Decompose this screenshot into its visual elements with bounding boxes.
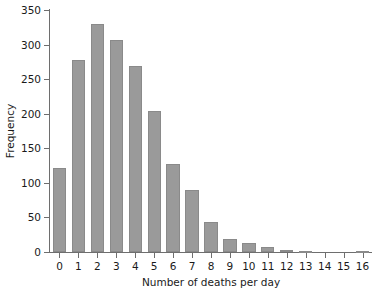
x-axis-tick [59, 253, 60, 258]
y-axis-tick [44, 252, 49, 253]
bar [72, 60, 85, 252]
y-axis-tick [44, 45, 49, 46]
x-axis-tick [344, 253, 345, 258]
x-axis-tick [154, 253, 155, 258]
x-axis-tick [287, 253, 288, 258]
x-axis-tick [306, 253, 307, 258]
bar [223, 239, 236, 252]
x-axis-tick-label: 9 [227, 261, 234, 272]
x-axis-tick-label: 5 [151, 261, 158, 272]
x-axis-tick [116, 253, 117, 258]
bar [261, 247, 274, 252]
bars-layer [50, 10, 372, 252]
bar [280, 250, 293, 252]
x-axis-tick [249, 253, 250, 258]
y-axis-tick-label: 200 [21, 108, 41, 119]
x-axis-tick [78, 253, 79, 258]
bar [299, 251, 312, 253]
x-axis-tick [135, 253, 136, 258]
x-axis-tick-label: 4 [132, 261, 139, 272]
x-axis-tick-label: 13 [299, 261, 312, 272]
x-axis-tick-label: 14 [318, 261, 331, 272]
y-axis-tick [44, 148, 49, 149]
x-axis-tick-label: 3 [113, 261, 120, 272]
x-axis-tick [173, 253, 174, 258]
x-axis-tick-label: 12 [280, 261, 293, 272]
y-axis-tick [44, 183, 49, 184]
x-axis-tick-label: 2 [94, 261, 101, 272]
y-axis-tick [44, 114, 49, 115]
x-axis-tick-label: 10 [242, 261, 255, 272]
y-axis-tick-label: 50 [28, 212, 41, 223]
x-axis-tick [325, 253, 326, 258]
x-axis-tick [268, 253, 269, 258]
x-axis-tick-label: 7 [189, 261, 196, 272]
bar [242, 243, 255, 252]
x-axis-tick-label: 8 [208, 261, 215, 272]
x-axis-tick [363, 253, 364, 258]
y-axis-tick-label: 350 [21, 5, 41, 16]
y-axis-tick-label: 300 [21, 39, 41, 50]
bar [91, 24, 104, 252]
x-axis-tick [230, 253, 231, 258]
x-axis-tick-label: 16 [356, 261, 369, 272]
x-axis-tick [97, 253, 98, 258]
y-axis-tick [44, 217, 49, 218]
bar [166, 164, 179, 252]
x-axis-tick-label: 0 [56, 261, 63, 272]
x-axis-tick-label: 6 [170, 261, 177, 272]
y-axis-tick-label: 150 [21, 143, 41, 154]
y-axis-title: Frequency [3, 10, 17, 252]
bar [148, 111, 161, 252]
bar [110, 40, 123, 252]
bar [185, 190, 198, 252]
y-axis-tick-label: 0 [34, 247, 41, 258]
bar [204, 222, 217, 252]
y-axis-tick-label: 250 [21, 74, 41, 85]
x-axis-tick [192, 253, 193, 258]
x-axis-tick [211, 253, 212, 258]
bar [129, 66, 142, 252]
x-axis-tick-label: 11 [261, 261, 274, 272]
x-axis-tick-label: 1 [75, 261, 82, 272]
x-axis-title: Number of deaths per day [50, 276, 372, 288]
bar [53, 168, 66, 252]
bar [356, 251, 369, 253]
y-axis-tick-label: 100 [21, 178, 41, 189]
histogram-chart: 050100150200250300350 012345678910111213… [0, 0, 377, 296]
x-axis-tick-label: 15 [337, 261, 350, 272]
y-axis-tick [44, 79, 49, 80]
y-axis-tick [44, 10, 49, 11]
